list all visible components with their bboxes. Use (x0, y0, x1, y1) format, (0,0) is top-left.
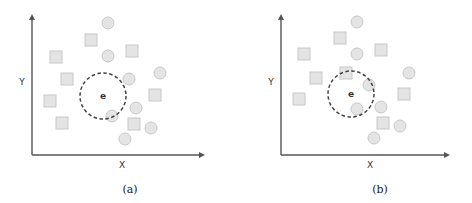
square-point (85, 34, 97, 46)
square-point (128, 118, 140, 130)
square-point (310, 72, 322, 84)
x-axis-label: X (119, 160, 125, 170)
x-axis-arrow-icon (199, 152, 205, 158)
panel-caption: (a) (122, 183, 137, 196)
square-point (61, 73, 73, 85)
circle-point (351, 16, 363, 28)
square-point (298, 48, 310, 60)
center-point-label: e (100, 91, 106, 101)
x-axis-label: X (367, 160, 373, 170)
square-point (375, 44, 387, 56)
y-axis-arrow-icon (278, 14, 284, 20)
square-point (56, 117, 68, 129)
circle-point (403, 67, 415, 79)
diagram-canvas: YXe(a) YXe(b) (0, 0, 472, 203)
circle-point (102, 50, 114, 62)
circle-point (145, 122, 157, 134)
square-point (377, 117, 389, 129)
circle-point (394, 120, 406, 132)
square-point (293, 93, 305, 105)
circle-point (375, 101, 387, 113)
panel-b: YXe(b) (267, 14, 450, 196)
circle-point (154, 67, 166, 79)
square-point (50, 51, 62, 63)
panel-a: YXe(a) (18, 14, 205, 196)
circle-point (119, 133, 131, 145)
square-point (334, 32, 346, 44)
circle-point (102, 17, 114, 29)
square-point (398, 88, 410, 100)
x-axis-arrow-icon (444, 152, 450, 158)
y-axis-label: Y (18, 77, 25, 87)
square-point (44, 95, 56, 107)
circle-point (123, 73, 135, 85)
panel-caption: (b) (372, 183, 388, 196)
center-point-label: e (348, 89, 354, 99)
circle-point (351, 103, 363, 115)
y-axis-arrow-icon (29, 14, 35, 20)
circle-point (368, 132, 380, 144)
square-point (149, 89, 161, 101)
y-axis-label: Y (267, 77, 274, 87)
circle-point (351, 48, 363, 60)
circle-point (106, 110, 118, 122)
circle-point (130, 102, 142, 114)
square-point (126, 45, 138, 57)
